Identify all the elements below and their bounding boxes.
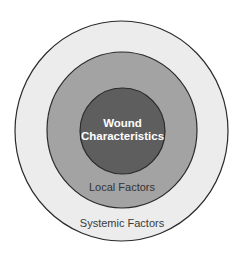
concentric-factors-diagram: Wound Characteristics Local Factors Syst…	[0, 0, 244, 255]
wound-label-line2: Characteristics	[81, 130, 164, 142]
local-factors-label: Local Factors	[89, 181, 156, 193]
wound-label-line1: Wound	[103, 117, 142, 129]
systemic-factors-label: Systemic Factors	[80, 217, 165, 229]
